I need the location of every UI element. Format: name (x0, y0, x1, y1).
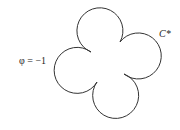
phi-label: φ = −1 (19, 55, 46, 66)
curve-label: C* (159, 28, 171, 39)
four-lobed-curve (54, 8, 161, 119)
